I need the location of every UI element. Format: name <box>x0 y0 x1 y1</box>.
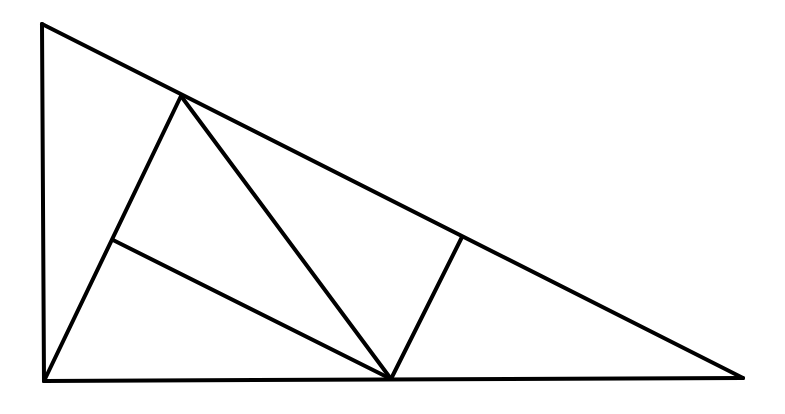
segment-p-r <box>181 96 391 379</box>
diagram-canvas <box>0 0 785 414</box>
segment-q-r <box>391 237 462 379</box>
triangle-diagram <box>0 0 785 414</box>
segment-s-r <box>113 240 391 379</box>
hypotenuse <box>42 24 743 378</box>
left-leg <box>42 24 44 381</box>
